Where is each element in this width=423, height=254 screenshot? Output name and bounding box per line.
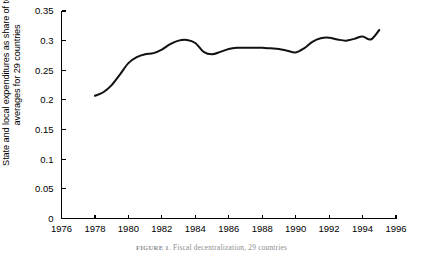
y-tick-label-group: 00.050.10.150.20.250.30.35: [35, 5, 54, 224]
x-tick-label: 1996: [385, 223, 406, 234]
y-tick-label: 0.05: [35, 183, 54, 194]
figure-container: State and local expenditures as share of…: [0, 0, 423, 254]
y-tick-label: 0.35: [35, 5, 54, 16]
y-tick-label: 0.1: [40, 154, 53, 165]
figure-caption-text: Fiscal decentralization, 29 countries: [173, 243, 287, 252]
y-tick-label: 0.2: [40, 94, 53, 105]
x-tick-label: 1980: [118, 223, 139, 234]
figure-caption: FIGURE 1. Fiscal decentralization, 29 co…: [0, 243, 423, 254]
x-tick-label: 1984: [185, 223, 206, 234]
x-tick-label: 1994: [352, 223, 373, 234]
x-tick-label-group: 1976197819801982198419861988199019921994…: [51, 223, 407, 234]
x-tick-label: 1986: [218, 223, 239, 234]
x-tick-label: 1978: [84, 223, 105, 234]
figure-caption-label: FIGURE 1.: [136, 244, 171, 251]
x-tick-label: 1992: [319, 223, 340, 234]
tick-mark-group: [62, 11, 397, 219]
x-tick-label: 1976: [51, 223, 72, 234]
line-chart: 00.050.10.150.20.250.30.35 1976197819801…: [0, 0, 423, 254]
data-series-line: [95, 30, 379, 96]
x-tick-label: 1990: [285, 223, 306, 234]
x-tick-label: 1988: [252, 223, 273, 234]
x-tick-label: 1982: [151, 223, 172, 234]
y-tick-label: 0.25: [35, 65, 54, 76]
y-tick-label: 0.15: [35, 124, 54, 135]
y-tick-label: 0.3: [40, 35, 53, 46]
